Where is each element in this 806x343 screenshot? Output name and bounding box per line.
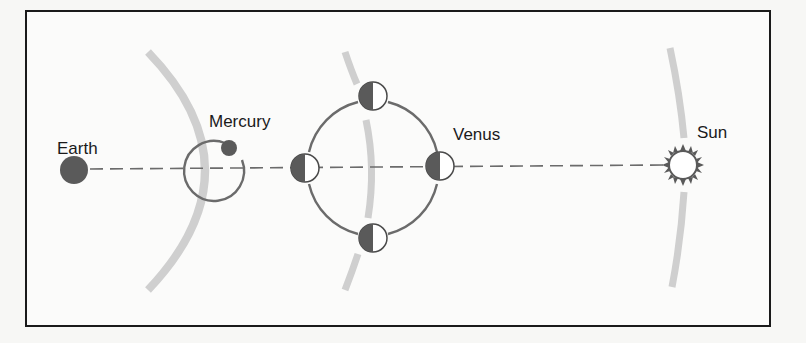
sun-orbit-band-top	[670, 48, 684, 138]
solar-diagram	[0, 0, 806, 343]
line-of-sight	[90, 165, 666, 169]
sun-label: Sun	[697, 124, 727, 141]
venus-orbit-band-top	[345, 52, 357, 84]
mercury-orbit-band	[148, 52, 205, 290]
mercury-planet	[221, 140, 237, 156]
venus-phase-left	[291, 154, 319, 182]
sun-orbit-band-bottom	[672, 192, 684, 287]
venus-phase-top	[359, 82, 387, 110]
venus-orbit-band-middle	[366, 120, 372, 218]
earth-planet	[60, 156, 88, 184]
venus-phase-right	[426, 152, 454, 180]
venus-phase-bottom	[359, 224, 387, 252]
venus-label: Venus	[453, 126, 500, 143]
mercury-label: Mercury	[209, 113, 270, 130]
venus-orbit-band-bottom	[345, 254, 358, 290]
earth-label: Earth	[57, 140, 98, 157]
sun-icon	[662, 144, 704, 186]
